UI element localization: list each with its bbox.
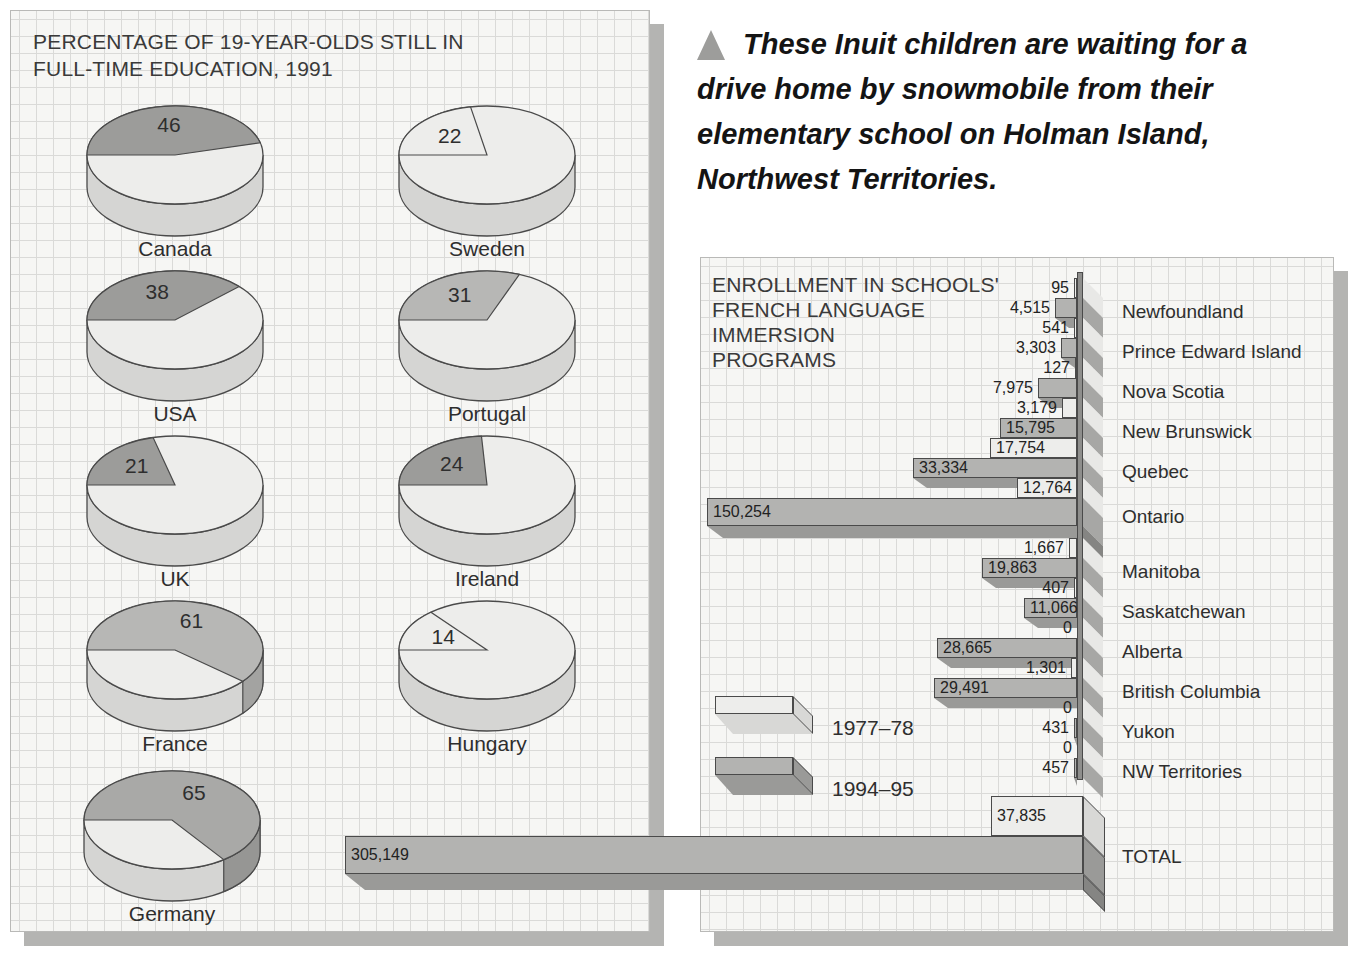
pie-country-label: France bbox=[75, 732, 275, 756]
category-label-prince-edward-island: Prince Edward Island bbox=[1122, 341, 1342, 363]
svg-text:14: 14 bbox=[432, 625, 456, 648]
axis-edge-strip bbox=[1077, 272, 1083, 780]
bar-prince-edward-island-1994-95 bbox=[1061, 338, 1077, 358]
svg-text:31: 31 bbox=[448, 283, 471, 306]
svg-text:65: 65 bbox=[182, 781, 205, 804]
svg-text:61: 61 bbox=[180, 609, 203, 632]
legend-label-1977-78: 1977–78 bbox=[832, 716, 914, 740]
svg-text:38: 38 bbox=[146, 280, 169, 303]
bar-british-columbia-1977-78 bbox=[1071, 658, 1077, 678]
bar-value-label: 29,491 bbox=[940, 679, 989, 697]
bar-value-label: 407 bbox=[909, 579, 1069, 597]
bar-saskatchewan-1977-78 bbox=[1074, 578, 1077, 598]
pie-usa: 38 bbox=[75, 260, 275, 410]
bar-value-label: 15,795 bbox=[1006, 419, 1055, 437]
pie-chart-title-line2: FULL-TIME EDUCATION, 1991 bbox=[33, 55, 464, 82]
svg-text:24: 24 bbox=[440, 452, 464, 475]
pie-france: 61 bbox=[75, 590, 275, 740]
pie-ireland: 24 bbox=[387, 425, 587, 575]
pie-country-label: Portugal bbox=[387, 402, 587, 426]
legend-swatch-1994-95 bbox=[715, 757, 793, 775]
category-label-ontario: Ontario bbox=[1122, 506, 1342, 528]
bar-value-label: 150,254 bbox=[713, 503, 771, 521]
category-label-yukon: Yukon bbox=[1122, 721, 1342, 743]
caption-line: elementary school on Holman Island, bbox=[697, 112, 1342, 157]
bar-newfoundland-1977-78 bbox=[1074, 278, 1077, 298]
pie-chart-title-line1: PERCENTAGE OF 19-YEAR-OLDS STILL IN bbox=[33, 28, 464, 55]
category-label-newfoundland: Newfoundland bbox=[1122, 301, 1342, 323]
category-label-nova-scotia: Nova Scotia bbox=[1122, 381, 1342, 403]
bar-value-label: 1,301 bbox=[906, 659, 1066, 677]
pie-portugal: 31 bbox=[387, 260, 587, 410]
pie-country-label: Ireland bbox=[387, 567, 587, 591]
bar-yukon-1994-95 bbox=[1074, 718, 1077, 738]
bar-new-brunswick-1977-78 bbox=[1062, 398, 1077, 418]
bar-value-label: 127 bbox=[910, 359, 1070, 377]
pie-country-label: Hungary bbox=[387, 732, 587, 756]
bar-value-label: 95 bbox=[909, 279, 1069, 297]
pie-hungary: 14 bbox=[387, 590, 587, 740]
bar-value-label: 457 bbox=[909, 759, 1069, 777]
bar-value-label: 431 bbox=[909, 719, 1069, 737]
pie-country-label: Sweden bbox=[387, 237, 587, 261]
category-label-new-brunswick: New Brunswick bbox=[1122, 421, 1342, 443]
bar-value-label: 7,975 bbox=[873, 379, 1033, 397]
bar-value-label: 4,515 bbox=[890, 299, 1050, 317]
bar-value-label: 12,764 bbox=[1023, 479, 1072, 497]
bar-value-label: 1,667 bbox=[904, 539, 1064, 557]
category-label-total: TOTAL bbox=[1122, 846, 1342, 868]
bar-value-label: 28,665 bbox=[943, 639, 992, 657]
bar-value-label: 19,863 bbox=[988, 559, 1037, 577]
bar-value-label: 541 bbox=[909, 319, 1069, 337]
category-label-saskatchewan: Saskatchewan bbox=[1122, 601, 1342, 623]
bar-value-label: 3,303 bbox=[896, 339, 1056, 357]
category-label-nw-territories: NW Territories bbox=[1122, 761, 1342, 783]
pie-chart-title: PERCENTAGE OF 19-YEAR-OLDS STILL IN FULL… bbox=[33, 28, 464, 82]
svg-text:22: 22 bbox=[438, 124, 461, 147]
bar-nova-scotia-1977-78 bbox=[1075, 358, 1077, 378]
bar-value-label: 0 bbox=[912, 739, 1072, 757]
scanned-atlas-page: PERCENTAGE OF 19-YEAR-OLDS STILL IN FULL… bbox=[0, 0, 1360, 957]
pie-uk: 21 bbox=[75, 425, 275, 575]
pie-sweden: 22 bbox=[387, 95, 587, 245]
bar-value-label: 11,066 bbox=[1030, 599, 1078, 617]
caption-line: drive home by snowmobile from their bbox=[697, 67, 1342, 112]
category-label-alberta: Alberta bbox=[1122, 641, 1342, 663]
bar-value-label: 17,754 bbox=[996, 439, 1045, 457]
bar-bottom-band bbox=[345, 874, 1083, 890]
pie-country-label: Canada bbox=[75, 237, 275, 261]
pie-country-label: UK bbox=[75, 567, 275, 591]
caption-line: Northwest Territories. bbox=[697, 157, 1342, 202]
bar-value-label: 305,149 bbox=[351, 846, 409, 864]
legend-label-1994-95: 1994–95 bbox=[832, 777, 914, 801]
pie-country-label: USA bbox=[75, 402, 275, 426]
bar-value-label: 0 bbox=[912, 619, 1072, 637]
legend-swatch-1977-78 bbox=[715, 696, 793, 714]
bar-manitoba-1977-78 bbox=[1069, 538, 1077, 558]
pie-germany: 65 bbox=[72, 760, 272, 910]
bar-total-1994-95 bbox=[345, 836, 1083, 874]
pie-canada: 46 bbox=[75, 95, 275, 245]
bar-nw-territories-1994-95 bbox=[1074, 758, 1077, 778]
caption-triangle-icon bbox=[697, 30, 725, 60]
bar-value-label: 37,835 bbox=[997, 807, 1046, 825]
caption-line: These Inuit children are waiting for a bbox=[697, 22, 1342, 67]
bar-value-label: 33,334 bbox=[919, 459, 968, 477]
pie-country-label: Germany bbox=[72, 902, 272, 926]
category-label-manitoba: Manitoba bbox=[1122, 561, 1342, 583]
bar-bottom-band bbox=[707, 526, 1077, 538]
bar-value-label: 3,179 bbox=[897, 399, 1057, 417]
bar-value-label: 0 bbox=[912, 699, 1072, 717]
bar-newfoundland-1994-95 bbox=[1055, 298, 1077, 318]
svg-text:21: 21 bbox=[125, 454, 148, 477]
bar-prince-edward-island-1977-78 bbox=[1074, 318, 1077, 338]
category-label-british-columbia: British Columbia bbox=[1122, 681, 1342, 703]
photo-caption: These Inuit children are waiting for a d… bbox=[697, 22, 1342, 202]
bar-nova-scotia-1994-95 bbox=[1038, 378, 1077, 398]
svg-text:46: 46 bbox=[157, 113, 180, 136]
category-label-quebec: Quebec bbox=[1122, 461, 1342, 483]
